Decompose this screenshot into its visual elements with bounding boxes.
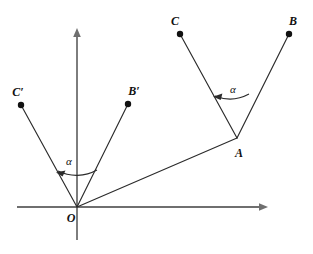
point-dot-Cprime bbox=[18, 102, 24, 108]
segment-A-B bbox=[237, 34, 289, 138]
point-dot-Bprime bbox=[125, 101, 131, 107]
segment-A-C bbox=[180, 34, 237, 138]
y-axis-arrow-icon bbox=[73, 28, 81, 37]
axes-group bbox=[17, 28, 268, 240]
figure-canvas bbox=[0, 0, 313, 254]
angle-arc-A-arrow-icon bbox=[213, 93, 222, 100]
angle-arrowheads-group bbox=[56, 93, 222, 176]
x-axis-arrow-icon bbox=[259, 203, 268, 211]
segment-O-A bbox=[77, 138, 237, 207]
point-dot-B bbox=[286, 31, 292, 37]
point-dot-C bbox=[177, 31, 183, 37]
point-label-A: A bbox=[235, 147, 243, 159]
geometry-diagram: C′ B′ C B A O α α bbox=[0, 0, 313, 254]
point-label-O: O bbox=[67, 212, 76, 224]
point-label-B: B bbox=[289, 15, 297, 27]
segment-O-Bprime bbox=[77, 104, 128, 207]
point-dots-group bbox=[18, 31, 292, 108]
angle-label-A: α bbox=[230, 84, 236, 95]
segments-group bbox=[21, 34, 289, 207]
point-label-Bprime: B′ bbox=[128, 85, 139, 97]
angle-label-origin: α bbox=[66, 156, 72, 167]
angle-arcs-group bbox=[58, 94, 249, 175]
point-label-C: C bbox=[171, 15, 179, 27]
point-label-Cprime: C′ bbox=[12, 86, 23, 98]
